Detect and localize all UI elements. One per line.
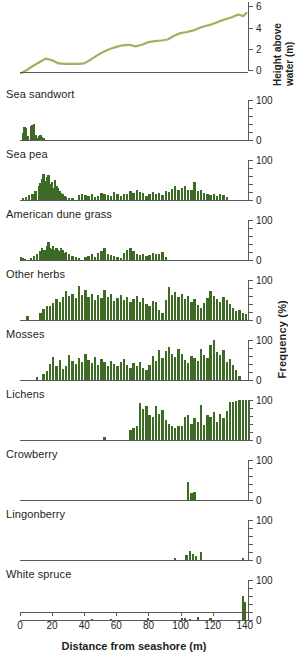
bar xyxy=(226,411,228,440)
height-tick-label: 4 xyxy=(256,22,262,33)
frequency-tick-label: 0 xyxy=(256,195,262,206)
bar xyxy=(216,352,218,380)
bar xyxy=(181,354,183,380)
bar xyxy=(68,296,70,320)
bar xyxy=(232,402,234,440)
bar xyxy=(238,400,240,440)
bar xyxy=(222,418,224,440)
height-axis-spine xyxy=(248,2,249,71)
bar xyxy=(158,310,160,320)
frequency-tick-label: 0 xyxy=(256,315,262,326)
frequency-axis-spine xyxy=(248,160,249,201)
frequency-tick xyxy=(248,380,253,381)
bar xyxy=(139,403,141,440)
bar xyxy=(152,417,154,440)
bar xyxy=(174,186,176,200)
bar xyxy=(142,298,144,320)
frequency-tick-label: 0 xyxy=(256,255,262,266)
bar xyxy=(113,364,115,380)
bar xyxy=(129,248,131,260)
bar xyxy=(238,310,240,320)
bar xyxy=(168,347,170,380)
x-axis-title: Distance from seashore (m) xyxy=(0,640,268,652)
frequency-tick xyxy=(248,604,253,605)
bar xyxy=(129,302,131,320)
bar xyxy=(171,426,173,440)
panel-baseline xyxy=(20,260,248,261)
bar xyxy=(190,356,192,380)
bar xyxy=(68,355,70,380)
frequency-axis-spine xyxy=(248,460,249,501)
plot-area xyxy=(20,280,248,326)
frequency-tick-label: 100 xyxy=(256,95,273,106)
frequency-axis-title: Frequency (%) xyxy=(276,300,288,378)
bar-series xyxy=(20,100,248,140)
plot-area xyxy=(20,520,248,566)
frequency-y-axis: 0100 xyxy=(248,340,302,386)
panel-crowberry: Crowberry0100 xyxy=(0,446,302,506)
frequency-y-axis: 0100 xyxy=(248,400,302,446)
bar xyxy=(110,361,112,380)
bar xyxy=(148,365,150,380)
x-tick-label: 20 xyxy=(47,620,58,631)
bar xyxy=(158,414,160,440)
x-tick xyxy=(181,612,182,616)
bar xyxy=(184,186,186,200)
panel-american-dune-grass: American dune grass0100 xyxy=(0,206,302,266)
bar xyxy=(245,400,247,440)
bar xyxy=(219,414,221,440)
frequency-tick-label: 100 xyxy=(256,455,273,466)
bar xyxy=(174,357,176,380)
bar xyxy=(209,417,211,440)
bar xyxy=(152,253,154,260)
x-tick xyxy=(52,612,53,616)
bar xyxy=(94,300,96,320)
frequency-tick xyxy=(248,200,253,201)
bar xyxy=(184,360,186,380)
bar xyxy=(190,424,192,440)
bar xyxy=(62,297,64,320)
vegetation-succession-figure: 0246 Height above water (m) Sea sandwort… xyxy=(0,0,302,668)
frequency-tick xyxy=(248,460,253,461)
frequency-y-axis: 0100 xyxy=(248,520,302,566)
bar xyxy=(168,287,170,320)
frequency-tick xyxy=(248,560,253,561)
bar xyxy=(152,192,154,200)
bar xyxy=(129,368,131,380)
bar xyxy=(120,362,122,380)
frequency-tick xyxy=(248,312,253,313)
bar xyxy=(184,299,186,320)
x-tick-label: 60 xyxy=(111,620,122,631)
panel-baseline xyxy=(20,140,248,141)
bar-series xyxy=(20,280,248,320)
frequency-tick xyxy=(248,356,253,357)
frequency-tick-label: 100 xyxy=(256,155,273,166)
bar xyxy=(187,296,189,320)
bar xyxy=(222,350,224,380)
bar xyxy=(206,415,208,440)
frequency-tick xyxy=(248,320,253,321)
bar xyxy=(242,400,244,440)
bar xyxy=(181,426,183,440)
bar xyxy=(59,302,61,320)
bar xyxy=(158,350,160,380)
bar xyxy=(81,362,83,380)
frequency-axis-spine xyxy=(248,280,249,321)
panel-lingonberry: Lingonberry0100 xyxy=(0,506,302,566)
bar xyxy=(171,189,173,200)
bar xyxy=(193,299,195,320)
height-tick xyxy=(248,28,253,29)
frequency-tick xyxy=(248,364,253,365)
bar xyxy=(209,291,211,320)
bar xyxy=(219,355,221,380)
frequency-tick-label: 100 xyxy=(256,575,273,586)
x-axis-spine xyxy=(20,612,248,613)
bar xyxy=(187,363,189,380)
frequency-tick xyxy=(248,544,253,545)
bar xyxy=(206,298,208,320)
frequency-y-axis: 0100 xyxy=(248,280,302,326)
panel-baseline xyxy=(20,440,248,441)
bar xyxy=(97,365,99,380)
panel-title: Lingonberry xyxy=(6,508,65,520)
x-tick xyxy=(213,612,214,616)
